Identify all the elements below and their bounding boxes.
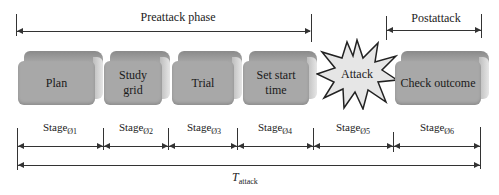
arrowhead-right-icon — [307, 143, 313, 149]
preattack-phase-label: Preattack phase — [16, 10, 340, 25]
step-set-start-time: Set start time — [243, 51, 317, 105]
arrowhead-left-icon — [387, 27, 393, 33]
arrowhead-right-icon — [231, 143, 237, 149]
arrowhead-left-icon — [169, 143, 175, 149]
arrowhead-left-icon — [104, 143, 110, 149]
arrowhead-right-icon — [475, 27, 481, 33]
stage-label-2: StageØ2 — [103, 121, 169, 136]
step-trial: Trial — [172, 51, 242, 105]
stage-label-6: StageØ6 — [393, 121, 481, 136]
preattack-arrow-line — [17, 31, 310, 32]
arrowhead-right-icon — [305, 28, 311, 34]
stage-label-3: StageØ3 — [169, 121, 239, 136]
step-check-outcome: Check outcome — [395, 51, 489, 105]
step-label: Set start time — [243, 61, 309, 105]
arrowhead-right-icon — [97, 143, 103, 149]
total-arrow-line — [18, 165, 480, 166]
postattack-right-tick — [481, 14, 482, 38]
postattack-arrow-line — [387, 30, 481, 31]
arrowhead-right-icon — [474, 143, 480, 149]
arrowhead-right-icon — [474, 162, 480, 168]
arrowhead-right-icon — [387, 143, 393, 149]
step-label: Attack — [316, 67, 398, 82]
step-label: Check outcome — [395, 61, 481, 105]
arrowhead-left-icon — [314, 143, 320, 149]
arrowhead-left-icon — [17, 28, 23, 34]
step-plan: Plan — [18, 51, 103, 105]
step-study-grid: Study grid — [104, 51, 170, 105]
arrowhead-left-icon — [18, 162, 24, 168]
stage-arrow-line — [18, 146, 480, 147]
step-attack: Attack — [316, 38, 398, 110]
stage-label-5: StageØ5 — [313, 121, 393, 136]
arrowhead-left-icon — [18, 143, 24, 149]
stage-tick — [480, 127, 481, 169]
stage-label-4: StageØ4 — [238, 121, 312, 136]
postattack-phase-label: Postattack — [386, 11, 486, 26]
total-attack-time-label: Tattack — [232, 170, 258, 186]
stage-label-1: StageØ1 — [18, 121, 102, 136]
arrowhead-right-icon — [162, 143, 168, 149]
step-label: Trial — [172, 61, 234, 105]
preattack-right-tick — [311, 14, 312, 42]
step-label: Plan — [18, 61, 95, 105]
stage-tick — [393, 132, 394, 152]
arrowhead-left-icon — [394, 143, 400, 149]
step-label: Study grid — [104, 61, 162, 105]
arrowhead-left-icon — [238, 143, 244, 149]
